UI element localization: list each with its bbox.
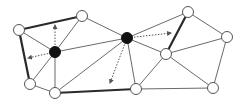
edge-F-H [127, 38, 166, 54]
open-node-C [25, 79, 36, 90]
edge-F-J [127, 38, 136, 89]
dotted-arrow-icon [110, 45, 125, 83]
open-node-D [50, 88, 61, 99]
solid-node-E [50, 47, 61, 58]
edge-G-H [166, 12, 188, 54]
open-node-K [208, 83, 219, 94]
solid-node-F [122, 33, 133, 44]
open-node-A [14, 25, 25, 36]
edge-I-K [213, 37, 227, 88]
edge-D-J [55, 89, 136, 93]
edge-E-F [55, 38, 127, 52]
open-node-I [222, 32, 233, 43]
dotted-arrow-icon [134, 33, 171, 37]
edge-J-K [136, 88, 213, 89]
edge-A-E [19, 30, 55, 52]
edge-C-E [30, 52, 55, 84]
edge-B-F [82, 16, 127, 38]
open-node-H [161, 49, 172, 60]
dotted-arrow-icon [28, 54, 48, 58]
edge-H-K [166, 54, 213, 88]
open-node-J [131, 84, 142, 95]
edge-H-I [166, 37, 227, 54]
edge-H-J [136, 54, 166, 89]
graph-diagram [0, 0, 245, 104]
open-node-G [183, 7, 194, 18]
edge-A-C [19, 30, 30, 84]
edge-G-I [188, 12, 227, 37]
open-node-B [77, 11, 88, 22]
nodes-layer [14, 7, 233, 99]
edge-F-G [127, 12, 188, 38]
edge-D-F [55, 38, 127, 93]
